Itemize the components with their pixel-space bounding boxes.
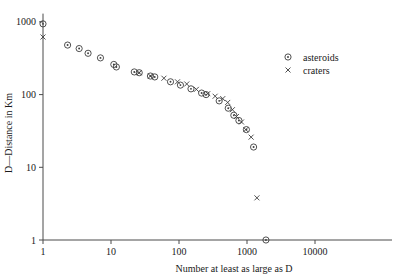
legend-label-craters: craters [303, 65, 330, 76]
y-axis-title: D—Distance in Km [3, 93, 14, 173]
x-axis-title: Number at least as large as D [176, 263, 293, 274]
data-point-asteroids-center [100, 57, 102, 59]
legend-label-asteroids: asteroids [303, 52, 339, 63]
y-axis-ticks: 1101001000 [16, 16, 43, 245]
data-point-asteroids-center [87, 52, 89, 54]
data-point-asteroids-center [227, 107, 229, 109]
data-point-asteroids-center [42, 23, 44, 25]
y-tick-label: 1000 [16, 16, 36, 27]
x-axis-ticks: 110100100010000 [41, 240, 328, 257]
data-point-asteroids-center [78, 48, 80, 50]
data-point-asteroids-center [190, 88, 192, 90]
x-tick-label: 10000 [303, 246, 328, 257]
data-point-asteroids-center [154, 76, 156, 78]
plot-axes [43, 14, 392, 240]
x-tick-label: 1000 [237, 246, 257, 257]
legend-marker-asteroids-center [287, 56, 289, 58]
x-tick-label: 10 [106, 246, 116, 257]
data-point-asteroids-center [201, 92, 203, 94]
chart-legend: asteroidscraters [285, 52, 339, 76]
data-point-asteroids-center [115, 66, 117, 68]
data-point-asteroids-center [133, 71, 135, 73]
data-point-asteroids-center [67, 44, 69, 46]
x-tick-label: 100 [172, 246, 187, 257]
y-tick-label: 10 [26, 162, 36, 173]
data-point-asteroids-center [265, 239, 267, 241]
chart-container: 1101001000 110100100010000 asteroidscrat… [0, 0, 404, 280]
y-tick-label: 100 [21, 89, 36, 100]
y-tick-label: 1 [31, 235, 36, 246]
data-point-asteroids-center [170, 81, 172, 83]
series-craters [41, 34, 260, 200]
series-asteroids [40, 21, 269, 243]
x-tick-label: 1 [41, 246, 46, 257]
data-point-asteroids-center [253, 146, 255, 148]
data-point-asteroids-center [218, 100, 220, 102]
scatter-plot: 1101001000 110100100010000 asteroidscrat… [0, 0, 404, 280]
